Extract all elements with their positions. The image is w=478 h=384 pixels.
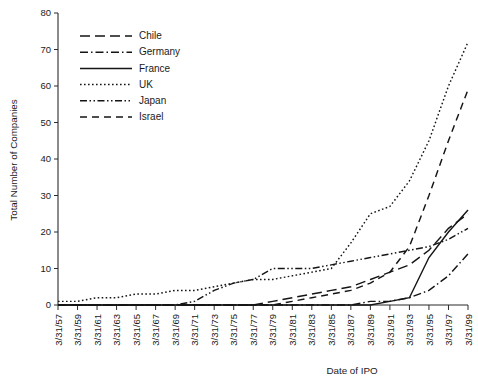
y-tick-label: 40 [40,153,51,164]
x-tick-label: 3/31/95 [424,314,435,346]
x-tick-label: 3/31/87 [345,314,356,346]
y-tick-label: 60 [40,80,51,91]
x-tick-label: 3/31/89 [365,314,376,346]
x-tick-label: 3/31/77 [248,314,259,346]
x-axis: 3/31/573/31/593/31/613/31/633/31/653/31/… [53,305,474,346]
x-tick-label: 3/31/75 [228,314,239,346]
series-line-chile [58,214,468,305]
series-line-germany [58,254,468,305]
x-tick-label: 3/31/83 [306,314,317,346]
x-tick-label: 3/31/63 [111,314,122,346]
chart-container: 01020304050607080 3/31/573/31/593/31/613… [0,0,478,384]
x-tick-label: 3/31/73 [209,314,220,346]
legend-label-france: France [139,63,171,74]
legend-label-chile: Chile [139,30,162,41]
x-tick-label: 3/31/59 [72,314,83,346]
y-tick-label: 20 [40,226,51,237]
legend-label-germany: Germany [139,46,180,57]
x-tick-label: 3/31/79 [267,314,278,346]
y-tick-label: 10 [40,263,51,274]
y-tick-label: 0 [46,299,51,310]
x-tick-label: 3/31/69 [170,314,181,346]
series-layer [58,42,468,305]
series-line-france [58,210,468,305]
y-tick-label: 80 [40,7,51,18]
series-line-israel [58,90,468,305]
y-axis-title: Total Number of Companies [8,99,19,221]
x-axis-title: Date of IPO [326,365,378,376]
y-tick-label: 70 [40,44,51,55]
chart-legend: ChileGermanyFranceUKJapanIsrael [80,30,180,122]
line-chart-figure: 01020304050607080 3/31/573/31/593/31/613… [0,0,478,384]
x-tick-label: 3/31/85 [326,314,337,346]
legend-label-japan: Japan [139,95,166,106]
legend-label-israel: Israel [139,111,163,122]
y-axis: 01020304050607080 [40,7,58,310]
x-tick-label: 3/31/97 [443,314,454,346]
legend-label-uk: UK [139,79,153,90]
x-tick-label: 3/31/57 [53,314,64,346]
x-tick-label: 3/31/81 [287,314,298,346]
x-tick-label: 3/31/91 [385,314,396,346]
y-tick-label: 30 [40,190,51,201]
x-tick-label: 3/31/61 [92,314,103,346]
x-tick-label: 3/31/71 [189,314,200,346]
y-tick-label: 50 [40,117,51,128]
x-tick-label: 3/31/99 [463,314,474,346]
series-line-uk [58,42,468,301]
x-tick-label: 3/31/65 [131,314,142,346]
x-tick-label: 3/31/93 [404,314,415,346]
x-tick-label: 3/31/67 [150,314,161,346]
